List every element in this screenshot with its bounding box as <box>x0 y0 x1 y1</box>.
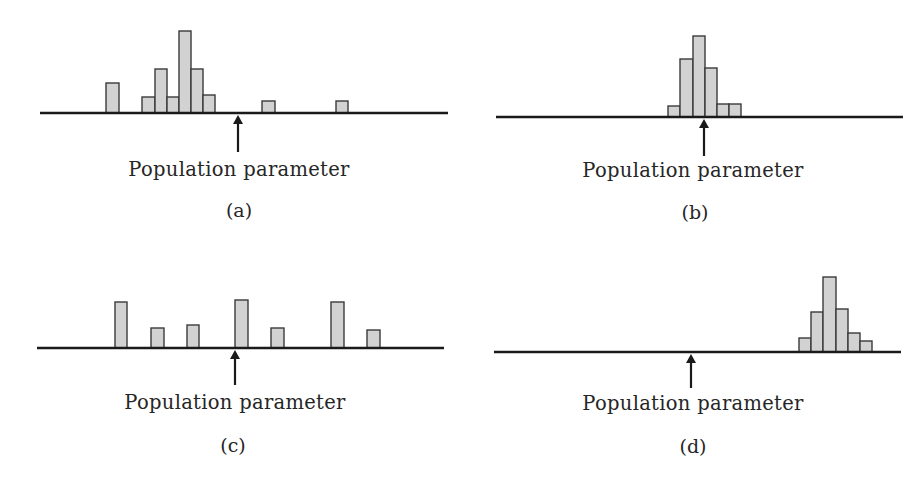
panel-b <box>496 36 903 156</box>
histogram-bar <box>142 97 155 113</box>
panel-d-parameter-label: Population parameter <box>582 392 803 415</box>
panel-a-parameter-label: Population parameter <box>128 158 349 181</box>
histogram-bar <box>693 36 705 117</box>
histogram-bar <box>151 328 164 348</box>
histogram-bar <box>811 312 823 352</box>
histogram-bar <box>167 97 179 113</box>
histogram-bar <box>680 59 693 117</box>
panel-b-caption: (b) <box>682 201 709 223</box>
histogram-bar <box>336 101 348 113</box>
histogram-bar <box>115 302 127 348</box>
panel-a-caption: (a) <box>226 199 252 221</box>
panel-c <box>37 300 444 385</box>
histogram-bar <box>331 302 344 348</box>
histogram-bar <box>271 328 284 348</box>
histogram-bar <box>235 300 248 348</box>
histogram-bar <box>799 338 811 352</box>
histogram-bar <box>203 95 215 113</box>
histogram-bar <box>367 330 380 348</box>
histogram-bar <box>187 325 199 348</box>
histogram-bar <box>106 83 119 113</box>
histogram-bar <box>668 106 680 117</box>
histogram-bar <box>823 277 836 352</box>
histogram-bar <box>848 333 860 352</box>
histogram-bar <box>705 68 717 117</box>
histogram-bar <box>179 31 191 113</box>
arrow-head-icon <box>230 350 240 359</box>
panel-b-parameter-label: Population parameter <box>582 159 803 182</box>
histogram-bar <box>191 69 203 113</box>
panel-a <box>40 31 448 152</box>
panel-d <box>494 277 901 388</box>
histogram-bar <box>155 69 167 113</box>
histogram-bar <box>717 104 729 117</box>
histogram-bar <box>860 341 872 352</box>
panel-d-caption: (d) <box>680 435 707 457</box>
histogram-bar <box>262 101 275 113</box>
arrow-head-icon <box>686 354 696 363</box>
arrow-head-icon <box>699 119 709 128</box>
histogram-bar <box>836 309 848 352</box>
panel-c-parameter-label: Population parameter <box>124 391 345 414</box>
sampling-distribution-figure: Population parameter (a) Population para… <box>0 0 923 483</box>
panel-c-caption: (c) <box>220 434 245 456</box>
histogram-bar <box>729 104 741 117</box>
arrow-head-icon <box>233 115 243 124</box>
